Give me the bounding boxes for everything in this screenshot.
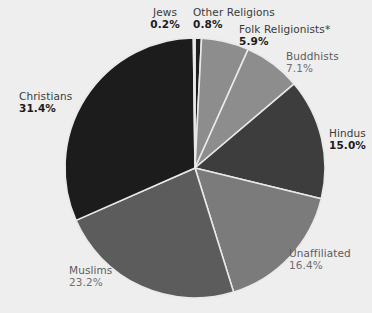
pie-label-jews: Jews 0.2% xyxy=(141,6,189,31)
pie-label-jews-value: 0.2% xyxy=(141,18,189,30)
pie-label-other-religions-name: Other Religions xyxy=(193,6,277,18)
pie-label-muslims-value: 23.2% xyxy=(69,276,131,288)
pie-label-muslims: Muslims 23.2% xyxy=(69,264,131,289)
pie-label-unaffiliated-value: 16.4% xyxy=(289,259,369,271)
pie-label-christians-name: Christians xyxy=(19,90,93,102)
pie-label-folk-religionists-value: 5.9% xyxy=(239,35,343,47)
pie-label-jews-name: Jews xyxy=(141,6,189,18)
pie-label-buddhists: Buddhists 7.1% xyxy=(286,50,366,75)
pie-label-christians-value: 31.4% xyxy=(19,102,93,114)
pie-label-hindus: Hindus 15.0% xyxy=(329,127,372,152)
pie-label-unaffiliated: Unaffiliated 16.4% xyxy=(289,247,369,272)
pie-label-folk-religionists: Folk Religionists* 5.9% xyxy=(239,23,343,48)
pie-label-buddhists-value: 7.1% xyxy=(286,62,366,74)
pie-label-folk-religionists-name: Folk Religionists* xyxy=(239,23,343,35)
pie-chart: Jews 0.2% Other Religions 0.8% Folk Reli… xyxy=(0,0,372,313)
pie-label-buddhists-name: Buddhists xyxy=(286,50,366,62)
pie-label-hindus-value: 15.0% xyxy=(329,139,372,151)
pie-label-unaffiliated-name: Unaffiliated xyxy=(289,247,369,259)
pie-slices xyxy=(65,38,325,298)
pie-label-christians: Christians 31.4% xyxy=(19,90,93,115)
pie-label-muslims-name: Muslims xyxy=(69,264,131,276)
pie-label-hindus-name: Hindus xyxy=(329,127,372,139)
